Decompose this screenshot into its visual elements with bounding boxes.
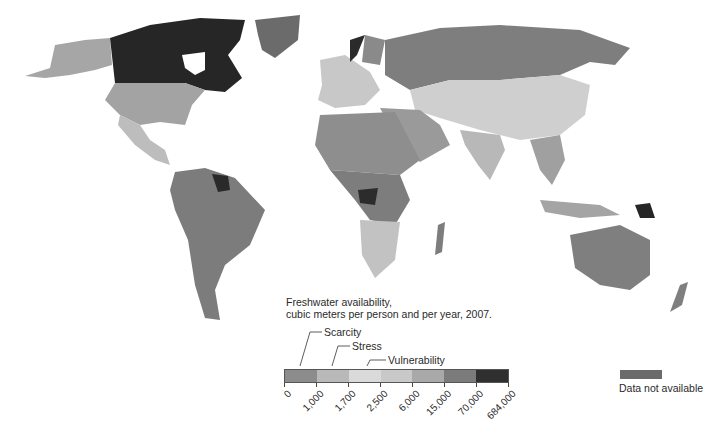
category-label-vulnerability: Vulnerability	[388, 354, 445, 366]
legend-band-3	[381, 370, 413, 382]
world-map	[0, 0, 723, 431]
region-canada	[110, 18, 245, 92]
legend-band-2	[349, 370, 381, 382]
region-congo	[358, 188, 378, 205]
region-new-zealand	[670, 282, 688, 312]
legend-tick	[412, 383, 413, 387]
legend-title-line1: Freshwater availability,	[286, 296, 492, 308]
region-scandinavia	[362, 35, 385, 65]
legend-band-0	[285, 370, 317, 382]
region-greenland	[255, 15, 300, 58]
region-southern-africa	[360, 220, 400, 278]
legend-title: Freshwater availability, cubic meters pe…	[286, 296, 492, 320]
legend-tick	[476, 383, 477, 387]
legend-band-6	[476, 370, 508, 382]
region-madagascar	[435, 222, 445, 255]
region-australia	[570, 225, 650, 290]
legend-band-1	[317, 370, 349, 382]
category-label-stress: Stress	[352, 340, 382, 352]
legend-tick	[508, 383, 509, 387]
no-data-swatch	[620, 370, 662, 379]
legend-color-bar	[284, 369, 509, 383]
legend-tick	[284, 383, 285, 387]
region-indonesia	[540, 200, 620, 218]
legend-tick	[316, 383, 317, 387]
legend-title-line2: cubic meters per person and per year, 20…	[286, 308, 492, 320]
legend-tick	[348, 383, 349, 387]
legend-band-5	[444, 370, 476, 382]
legend-tick	[444, 383, 445, 387]
region-south-america	[170, 168, 265, 320]
legend-tick	[380, 383, 381, 387]
region-png	[635, 203, 655, 218]
no-data-label: Data not available	[619, 382, 703, 394]
region-alaska	[25, 38, 112, 78]
region-se-asia	[530, 135, 565, 185]
legend-band-4	[412, 370, 444, 382]
region-india	[460, 130, 505, 180]
category-label-scarcity: Scarcity	[324, 326, 361, 338]
